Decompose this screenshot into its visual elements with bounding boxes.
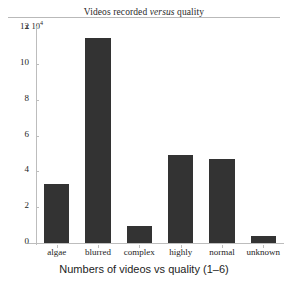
y-axis-exponent-power: 4 xyxy=(40,20,43,26)
bar-series xyxy=(36,28,284,243)
y-axis-tick-mark xyxy=(36,243,39,244)
y-axis-tick-label: 8 xyxy=(25,93,30,103)
title-divider xyxy=(8,17,280,18)
y-axis-tick-label: 10 xyxy=(20,57,29,67)
chart-title-after: quality xyxy=(175,7,205,17)
bar-normal xyxy=(209,159,235,243)
chart-title-italic: versus xyxy=(150,7,175,17)
x-axis-tick-label-highly: highly xyxy=(160,247,201,257)
bar-unknown xyxy=(251,236,277,243)
x-axis-tick-label-complex: complex xyxy=(119,247,160,257)
x-axis-tick-mark xyxy=(139,245,140,248)
y-axis-tick-label: 6 xyxy=(25,129,30,139)
x-axis-tick-mark xyxy=(222,245,223,248)
x-axis-tick-label-blurred: blurred xyxy=(77,247,118,257)
y-axis-tick-label: 4 xyxy=(25,164,30,174)
x-axis-label: Numbers of videos vs quality (1–6) xyxy=(0,263,288,275)
chart-figure: Videos recorded versus quality x 104 024… xyxy=(0,0,288,287)
y-axis-tick-label: 12 xyxy=(20,21,29,31)
chart-title-before: Videos recorded xyxy=(84,7,150,17)
bar-algae xyxy=(44,184,70,243)
x-axis-tick-mark xyxy=(98,245,99,248)
y-axis-tick-label: 2 xyxy=(25,200,30,210)
x-axis-tick-label-unknown: unknown xyxy=(243,247,284,257)
x-axis-line xyxy=(28,243,284,244)
x-axis-tick-label-normal: normal xyxy=(201,247,242,257)
x-axis-tick-mark xyxy=(181,245,182,248)
bar-highly xyxy=(168,155,194,243)
x-axis-tick-mark xyxy=(57,245,58,248)
x-axis-ticks: algaeblurredcomplexhighlynormalunknown xyxy=(36,245,284,261)
y-axis-tick-label: 0 xyxy=(25,236,30,246)
bar-complex xyxy=(127,226,153,243)
bar-blurred xyxy=(85,38,111,243)
x-axis-tick-label-algae: algae xyxy=(36,247,77,257)
x-axis-tick-mark xyxy=(263,245,264,248)
chart-title: Videos recorded versus quality xyxy=(84,7,204,17)
